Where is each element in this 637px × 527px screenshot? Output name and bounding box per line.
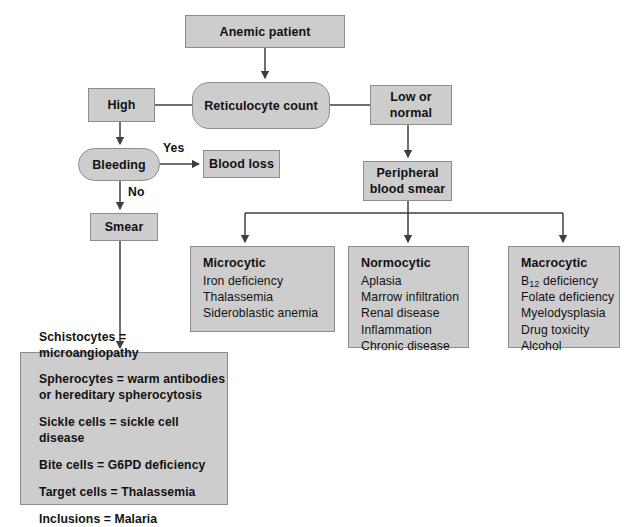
category-box-normocytic[interactable]: Normocytic Aplasia Marrow infiltration R…	[348, 246, 469, 348]
finding-line: Spherocytes = warm antibodies or heredit…	[39, 372, 227, 404]
node-high-label: High	[107, 97, 135, 113]
node-blood-loss[interactable]: Blood loss	[203, 150, 280, 178]
node-anemic-patient-label: Anemic patient	[220, 24, 311, 40]
category-item: Drug toxicity	[521, 322, 619, 338]
flowchart-canvas: Anemic patient Reticulocyte count High L…	[0, 0, 637, 527]
category-item: Inflammation	[361, 322, 468, 338]
category-item: Iron deficiency	[203, 273, 334, 289]
node-anemic-patient[interactable]: Anemic patient	[185, 15, 345, 48]
category-item: Chronic disease	[361, 338, 468, 354]
finding-line: Inclusions = Malaria	[39, 512, 227, 527]
b12-prefix: B	[521, 274, 529, 288]
finding-text: Schistocytes = microangiopathy	[39, 330, 139, 360]
node-reticulocyte-count[interactable]: Reticulocyte count	[192, 82, 330, 129]
category-item: Folate deficiency	[521, 289, 619, 305]
node-peripheral-blood-smear-line2: blood smear	[370, 181, 445, 197]
node-peripheral-blood-smear[interactable]: Peripheral blood smear	[363, 161, 452, 201]
category-item: Myelodysplasia	[521, 305, 619, 321]
finding-text: Inclusions = Malaria	[39, 512, 157, 526]
node-high[interactable]: High	[88, 88, 155, 122]
category-item: Marrow infiltration	[361, 289, 468, 305]
category-item: B12 deficiency	[521, 273, 619, 289]
smear-findings-box[interactable]: Schistocytes = microangiopathy Spherocyt…	[20, 352, 228, 505]
node-low-or-normal-line2: normal	[390, 105, 432, 121]
category-item: Sideroblastic anemia	[203, 305, 334, 321]
finding-line: Sickle cells = sickle cell disease	[39, 415, 227, 447]
category-item: Alcohol	[521, 338, 619, 354]
finding-text: Target cells = Thalassemia	[39, 485, 196, 499]
node-low-or-normal-line1: Low or	[390, 89, 432, 105]
category-box-microcytic[interactable]: Microcytic Iron deficiency Thalassemia S…	[190, 246, 335, 332]
category-header: Microcytic	[203, 256, 334, 270]
category-item: Thalassemia	[203, 289, 334, 305]
finding-line: Bite cells = G6PD deficiency	[39, 458, 227, 474]
category-box-macrocytic[interactable]: Macrocytic B12 deficiency Folate deficie…	[508, 246, 620, 348]
node-reticulocyte-count-label: Reticulocyte count	[204, 98, 318, 114]
finding-text: Spherocytes = warm antibodies	[39, 372, 225, 386]
category-header: Normocytic	[361, 256, 468, 270]
edge-label-no: No	[128, 185, 144, 199]
edge-label-yes: Yes	[163, 141, 184, 155]
finding-line: Target cells = Thalassemia	[39, 485, 227, 501]
category-item: Aplasia	[361, 273, 468, 289]
finding-text: Bite cells = G6PD deficiency	[39, 458, 205, 472]
node-low-or-normal[interactable]: Low or normal	[370, 85, 452, 125]
b12-subscript: 12	[529, 279, 539, 289]
b12-suffix: deficiency	[539, 274, 598, 288]
node-smear[interactable]: Smear	[90, 213, 158, 241]
finding-line: Schistocytes = microangiopathy	[39, 330, 227, 362]
node-bleeding-label: Bleeding	[92, 157, 146, 173]
category-header: Macrocytic	[521, 256, 619, 270]
node-smear-label: Smear	[105, 219, 144, 235]
node-bleeding[interactable]: Bleeding	[78, 148, 160, 181]
node-peripheral-blood-smear-line1: Peripheral	[376, 165, 438, 181]
category-item: Renal disease	[361, 305, 468, 321]
finding-text: Sickle cells = sickle cell disease	[39, 415, 179, 445]
node-blood-loss-label: Blood loss	[209, 156, 274, 172]
finding-text-continued: or hereditary spherocytosis	[39, 388, 227, 404]
